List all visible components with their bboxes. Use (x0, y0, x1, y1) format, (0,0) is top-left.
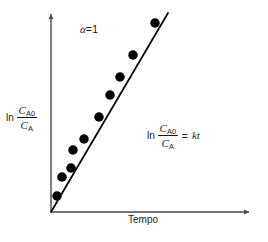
rate-denominator-symbol: C (162, 137, 169, 149)
y-axis-label-expression: ln CA0 CA (6, 104, 37, 132)
y-axis-numerator-subscript: A0 (26, 109, 35, 118)
data-point (66, 163, 76, 173)
y-axis-denominator: CA (20, 119, 34, 131)
rate-numerator-symbol: C (160, 122, 167, 134)
fit-line (51, 13, 168, 212)
y-axis-denominator-symbol: C (21, 119, 28, 131)
data-point (150, 18, 160, 28)
rate-equals-sign: = (182, 131, 188, 142)
data-point (105, 90, 115, 100)
rate-fraction: CA0 CA (158, 122, 178, 150)
data-point (115, 72, 125, 82)
rate-right-side: kt (192, 130, 200, 141)
rate-numerator: CA0 (159, 122, 178, 134)
alpha-value: 1 (92, 23, 98, 35)
rate-numerator-subscript: A0 (167, 127, 176, 136)
reaction-order-annotation: α=1 (80, 24, 98, 35)
rate-denominator-subscript: A (169, 142, 174, 151)
data-point (57, 172, 67, 182)
fit-line-group (51, 13, 168, 212)
y-axis-label: ln CA0 CA (6, 104, 37, 132)
y-axis-ln-operator: ln (6, 113, 14, 123)
data-points-group (52, 18, 160, 201)
kinetics-figure: α=1 ln CA0 CA ln CA0 CA = kt Tempo (0, 0, 268, 242)
data-point (94, 112, 104, 122)
rate-ln-operator: ln (147, 131, 155, 141)
y-axis-fraction: CA0 CA (17, 104, 37, 132)
y-axis-numerator: CA0 (18, 104, 37, 116)
y-axis-numerator-symbol: C (19, 104, 26, 116)
y-axis-denominator-subscript: A (28, 124, 33, 133)
plot-canvas (0, 0, 268, 242)
rate-equation-annotation: ln CA0 CA = kt (147, 122, 200, 150)
rate-equation-expression: ln CA0 CA (147, 122, 178, 150)
data-point (52, 191, 62, 201)
data-point (68, 145, 78, 155)
data-point (128, 50, 138, 60)
x-axis-label: Tempo (128, 215, 158, 225)
data-point (79, 134, 89, 144)
rate-denominator: CA (161, 137, 175, 149)
